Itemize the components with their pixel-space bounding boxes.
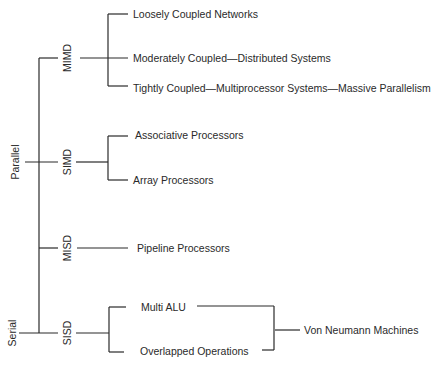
mimd-child-loosely-coupled: Loosely Coupled Networks (133, 8, 258, 20)
sisd-label: SISD (61, 321, 73, 346)
sisd-child-multi-alu: Multi ALU (141, 301, 186, 313)
simd-label: SIMD (61, 149, 73, 175)
simd-child-array: Array Processors (133, 174, 214, 186)
misd-child-pipeline: Pipeline Processors (137, 242, 230, 254)
mimd-child-moderately-coupled: Moderately Coupled—Distributed Systems (133, 52, 331, 64)
mimd-child-tightly-coupled: Tightly Coupled—Multiprocessor Systems—M… (133, 82, 431, 94)
misd-label: MISD (61, 235, 73, 261)
serial-label: Serial (6, 320, 18, 347)
parallel-label: Parallel (9, 144, 21, 179)
simd-child-associative: Associative Processors (135, 129, 244, 141)
mimd-label: MIMD (61, 44, 73, 72)
von-neumann-machines-label: Von Neumann Machines (304, 324, 418, 336)
sisd-child-overlapped: Overlapped Operations (140, 345, 249, 357)
